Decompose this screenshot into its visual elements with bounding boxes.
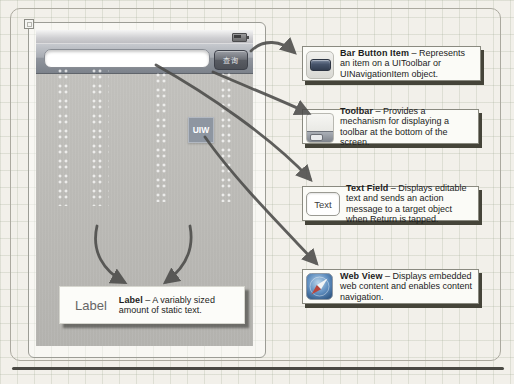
label-icon: Label <box>75 298 107 313</box>
callout-label: Label Label – A variably sized amount of… <box>59 286 245 324</box>
callout-bar-button-item-title: Bar Button Item <box>340 48 409 58</box>
figure-page: 查询 UIW Label Label – A variably sized am… <box>0 0 514 384</box>
callout-bar-button-item: Bar Button Item – Represents an item on … <box>302 46 481 81</box>
canvas-dot-texture <box>155 72 166 202</box>
callout-label-text: Label – A variably sized amount of stati… <box>119 295 244 316</box>
canvas-dot-texture <box>220 72 233 202</box>
webview-placeholder-badge[interactable]: UIW <box>188 117 214 143</box>
window-resize-handle[interactable] <box>24 19 34 29</box>
status-bar <box>36 30 253 44</box>
callout-text-field-title: Text Field <box>346 183 388 193</box>
web-view-compass-icon <box>306 273 333 300</box>
callout-web-view-title: Web View <box>340 271 382 281</box>
search-button[interactable]: 查询 <box>214 50 248 70</box>
url-text-field[interactable] <box>44 49 210 68</box>
callout-toolbar-title: Toolbar <box>340 106 373 116</box>
canvas-dot-texture <box>91 68 109 206</box>
text-field-icon: Text <box>306 192 340 216</box>
callout-label-title: Label <box>119 295 143 305</box>
toolbar-icon <box>306 113 334 143</box>
callout-text-field: Text Text Field – Displays editable text… <box>302 186 479 221</box>
battery-icon <box>232 33 247 42</box>
bar-button-item-icon <box>306 51 334 79</box>
figure-bottom-rule <box>12 367 504 370</box>
callout-web-view: Web View – Displays embedded web content… <box>302 269 479 304</box>
callout-toolbar: Toolbar – Provides a mechanism for displ… <box>302 109 479 144</box>
canvas-dot-texture <box>57 68 74 206</box>
